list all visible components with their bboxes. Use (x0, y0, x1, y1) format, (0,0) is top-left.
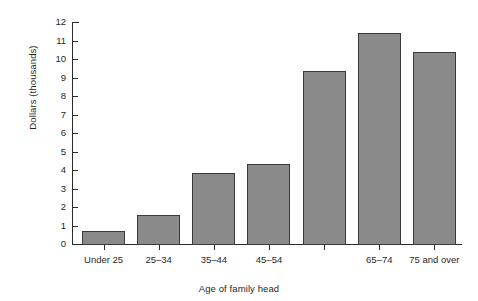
y-tick (72, 244, 78, 245)
y-tick (72, 226, 78, 227)
x-tick-label: 75 and over (389, 255, 478, 265)
bar-chart: Dollars (thousands) 0123456789101112 Und… (0, 0, 478, 301)
y-tick (72, 96, 78, 97)
bar (413, 52, 456, 245)
y-tick (72, 189, 78, 190)
x-tick (379, 245, 380, 250)
y-axis-title: Dollars (thousands) (27, 8, 38, 168)
x-axis-title: Age of family head (0, 283, 478, 294)
y-tick (72, 78, 78, 79)
y-tick-label: 6 (44, 128, 66, 138)
x-tick (159, 245, 160, 250)
y-tick-label: 8 (44, 91, 66, 101)
bar (358, 33, 401, 245)
y-tick (72, 170, 78, 171)
y-tick (72, 115, 78, 116)
y-tick (72, 207, 78, 208)
y-tick-label: 4 (44, 165, 66, 175)
y-tick (72, 41, 78, 42)
x-tick (434, 245, 435, 250)
y-tick (72, 152, 78, 153)
y-tick-label: 7 (44, 110, 66, 120)
y-tick-label: 0 (44, 239, 66, 249)
bar (247, 164, 290, 245)
y-tick-label: 11 (44, 36, 66, 46)
y-tick (72, 22, 78, 23)
y-tick-label: 9 (44, 73, 66, 83)
y-tick-label: 3 (44, 184, 66, 194)
y-tick-label: 10 (44, 54, 66, 64)
y-tick (72, 133, 78, 134)
bar (192, 173, 235, 245)
x-tick (104, 245, 105, 250)
y-tick-label: 1 (44, 221, 66, 231)
bar (303, 71, 346, 245)
bar (82, 231, 125, 245)
y-tick (72, 59, 78, 60)
y-tick-label: 5 (44, 147, 66, 157)
x-tick (324, 245, 325, 250)
x-tick (214, 245, 215, 250)
x-tick-label: 45–54 (224, 255, 314, 265)
x-tick (269, 245, 270, 250)
bar (137, 215, 180, 245)
y-tick-label: 2 (44, 202, 66, 212)
y-tick-label: 12 (44, 17, 66, 27)
